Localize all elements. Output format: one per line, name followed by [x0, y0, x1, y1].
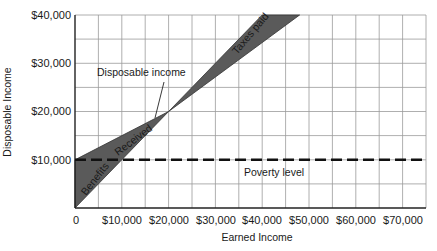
svg-text:$30,000: $30,000: [31, 57, 71, 69]
y-axis-label: Disposable Income: [1, 67, 13, 156]
x-axis-label: Earned Income: [221, 231, 292, 243]
svg-text:$30,000: $30,000: [196, 214, 236, 226]
poverty-level-label: Poverty level: [244, 166, 304, 178]
y-tick-labels: $40,000 $30,000 $20,000 $10,000: [31, 9, 71, 166]
svg-text:$60,000: $60,000: [336, 214, 376, 226]
svg-text:$40,000: $40,000: [242, 214, 282, 226]
svg-text:$10,000: $10,000: [102, 214, 142, 226]
svg-text:0: 0: [73, 214, 79, 226]
income-chart: Disposable income Poverty level Benefits…: [0, 0, 437, 251]
svg-text:$20,000: $20,000: [149, 214, 189, 226]
svg-text:$20,000: $20,000: [31, 105, 71, 117]
svg-text:$40,000: $40,000: [31, 9, 71, 21]
x-tick-labels: 0 $10,000 $20,000 $30,000 $40,000 $50,00…: [73, 214, 423, 226]
svg-text:$70,000: $70,000: [383, 214, 423, 226]
svg-text:$50,000: $50,000: [289, 214, 329, 226]
svg-text:$10,000: $10,000: [31, 154, 71, 166]
disposable-income-label: Disposable income: [97, 66, 186, 78]
